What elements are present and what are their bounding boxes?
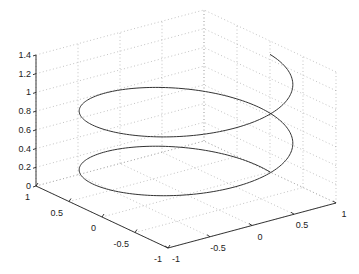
axes (33, 55, 336, 248)
y-tick-label: 0.5 (296, 220, 309, 230)
tick-labels: -1-0.500.51-1-0.500.5100.20.40.60.811.21… (18, 50, 346, 264)
x-tick-label: 0.5 (50, 208, 63, 218)
x-tick-label: 1 (25, 192, 30, 202)
y-tick-label: 0 (257, 232, 262, 242)
x-tick-label: -1 (154, 254, 162, 264)
y-tick-label: -1 (172, 254, 180, 264)
z-tick-label: 0 (26, 181, 31, 191)
z-tick-label: 0.4 (18, 144, 31, 154)
helix-curve (79, 54, 293, 195)
helix-3d-plot: -1-0.500.51-1-0.500.5100.20.40.60.811.21… (0, 0, 359, 274)
z-tick-label: 1.4 (18, 50, 31, 60)
z-tick-label: 0.6 (18, 125, 31, 135)
x-tick-label: 0 (91, 223, 96, 233)
z-tick-label: 1.2 (18, 69, 31, 79)
x-tick-label: -0.5 (113, 239, 129, 249)
z-tick-label: 0.2 (18, 162, 31, 172)
z-tick-label: 0.8 (18, 106, 31, 116)
y-tick-label: -0.5 (210, 243, 226, 253)
z-tick-label: 1 (26, 87, 31, 97)
y-tick-label: 1 (341, 209, 346, 219)
